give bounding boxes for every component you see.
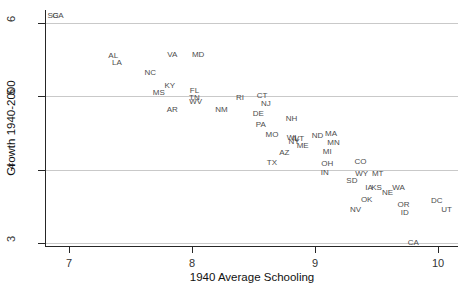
state-label-MI: MI [323,147,332,156]
state-label-MT: MT [372,168,384,177]
x-tick-9 [315,247,316,253]
state-label-IN: IN [321,167,329,176]
x-tick-8 [192,247,193,253]
gridline-y-6 [46,23,458,24]
state-label-MA: MA [325,128,337,137]
y-axis-title: Growth 1940-2000 [5,80,17,175]
x-tick-label-7: 7 [66,257,72,269]
x-axis-title: 1940 Average Schooling [190,271,314,283]
state-label-KY: KY [165,81,176,90]
state-label-MN: MN [327,137,339,146]
state-label-CO: CO [355,156,367,165]
state-label-ID: ID [401,208,409,217]
state-label-AZ: AZ [279,148,289,157]
y-tick-6 [38,23,45,24]
y-tick-label-6: 6 [5,15,17,21]
x-tick-10 [438,247,439,253]
state-label-MS: MS [153,88,165,97]
state-label-PA: PA [256,120,266,129]
state-label-WV: WV [189,96,202,105]
state-label-DC: DC [431,195,443,204]
x-axis-line [45,246,458,247]
state-label-NJ: NJ [261,98,271,107]
state-label-NC: NC [144,67,156,76]
state-label-NH: NH [286,114,298,123]
state-label-TX: TX [267,158,277,167]
gridline-y-5 [46,96,458,97]
x-tick-label-8: 8 [189,257,195,269]
y-axis-line [45,10,46,247]
x-tick-label-10: 10 [432,257,444,269]
state-label-NV: NV [350,204,361,213]
state-label-GA: GA [52,11,64,20]
state-label-LA: LA [112,57,122,66]
state-label-ME: ME [297,141,309,150]
state-label-KS: KS [371,182,382,191]
state-label-AR: AR [167,104,178,113]
y-tick-label-3: 3 [5,236,17,242]
scatter-plot: 345678910SCGAALLAVAMDNCKYMSFLTNWVARNMRIC… [0,0,470,298]
state-label-MO: MO [265,129,278,138]
y-tick-4 [38,170,45,171]
x-tick-7 [69,247,70,253]
gridline-y-4 [46,170,458,171]
state-label-NM: NM [215,104,227,113]
x-tick-label-9: 9 [312,257,318,269]
state-label-SD: SD [346,176,357,185]
state-label-ND: ND [312,131,324,140]
state-label-DE: DE [253,109,264,118]
state-label-UT: UT [441,204,452,213]
state-label-RI: RI [236,92,244,101]
state-label-OH: OH [321,159,333,168]
state-label-OK: OK [361,195,373,204]
state-label-MD: MD [192,50,204,59]
gridline-y-3 [46,243,458,244]
state-label-WA: WA [392,182,405,191]
state-label-CA: CA [408,237,419,246]
y-tick-5 [38,96,45,97]
state-label-VA: VA [167,50,177,59]
y-tick-3 [38,243,45,244]
